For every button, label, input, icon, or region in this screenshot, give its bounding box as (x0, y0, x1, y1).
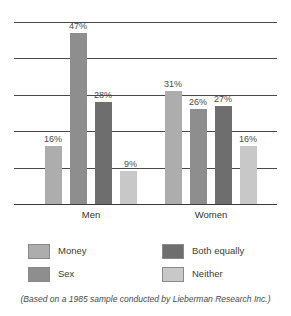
bar-value-label: 31% (145, 79, 182, 89)
legend-label: Neither (192, 268, 223, 279)
bar-men-sex (70, 33, 87, 204)
bar-men-neither (120, 171, 137, 204)
legend-swatch-icon (162, 267, 184, 282)
bar-women-money (165, 91, 182, 204)
bar-value-label: 16% (220, 134, 257, 144)
bar-women-sex (190, 109, 207, 204)
bar-value-label: 16% (25, 134, 62, 144)
bar-men-both-equally (95, 102, 112, 204)
bar-series-container: 16%47%28%9%31%26%27%16% (14, 13, 277, 204)
bar-men-money (45, 146, 62, 204)
axis-baseline (14, 204, 277, 205)
bar-value-label: 47% (50, 21, 87, 31)
bar-women-neither (240, 146, 257, 204)
bar-value-label: 27% (195, 94, 232, 104)
legend-swatch-icon (162, 244, 184, 259)
legend-swatch-icon (28, 267, 50, 282)
legend-label: Sex (58, 268, 74, 279)
chart-legend: MoneySexBoth equallyNeither (28, 244, 278, 288)
plot-area: 16%47%28%9%31%26%27%16% (14, 13, 277, 204)
legend-label: Money (58, 245, 87, 256)
chart-caption: (Based on a 1985 sample conducted by Lie… (0, 294, 291, 304)
group-label-women: Women (171, 209, 251, 220)
group-label-men: Men (51, 209, 131, 220)
bar-women-both-equally (215, 106, 232, 204)
bar-chart-figure: 16%47%28%9%31%26%27%16% MenWomen MoneySe… (0, 0, 291, 316)
bar-value-label: 9% (100, 159, 137, 169)
legend-label: Both equally (192, 245, 244, 256)
legend-swatch-icon (28, 244, 50, 259)
bar-value-label: 28% (75, 90, 112, 100)
